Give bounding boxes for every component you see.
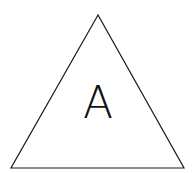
triangle-diagram: A	[0, 0, 195, 173]
triangle-label: A	[83, 77, 113, 128]
